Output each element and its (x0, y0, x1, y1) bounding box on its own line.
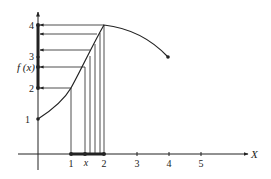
y-tick-label-1: 1 (25, 114, 30, 125)
x-tick-label-5: 5 (199, 158, 204, 169)
function-mapping-diagram: 1 x 2 3 4 5 1 2 3 4 f (x) X (0, 0, 271, 179)
x-axis-label: X (250, 148, 259, 160)
point-markers (36, 23, 170, 156)
y-tick-label-2: 2 (29, 83, 34, 94)
x-tick-label-1: 1 (69, 158, 74, 169)
x-tick-label-4: 4 (167, 158, 172, 169)
y-axis-label: f (x) (17, 61, 35, 74)
x-tick-label-3: 3 (135, 158, 140, 169)
vertical-mapping-lines (71, 25, 104, 154)
x-tick-label-2: 2 (102, 158, 107, 169)
function-curve (38, 25, 168, 119)
y-tick-label-4: 4 (29, 20, 34, 31)
horizontal-mapping-arrows (40, 25, 104, 88)
x-tick-label-x: x (83, 157, 89, 168)
